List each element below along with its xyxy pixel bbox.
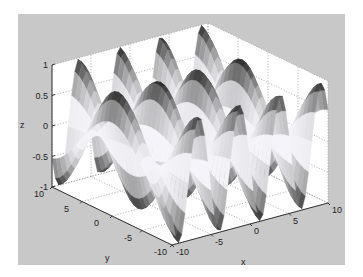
z-tick-label: -1 [40, 182, 48, 192]
y-tick-label: -5 [124, 233, 132, 243]
y-tick-label: -10 [154, 247, 167, 257]
y-tick-label: 5 [64, 204, 69, 214]
z-tick-label: 1 [43, 60, 48, 70]
surface-plot: -10-50510-10-50510-1-0.500.51 x y z [0, 0, 363, 277]
x-tick-label: 5 [293, 216, 298, 226]
y-axis-label: y [105, 253, 110, 263]
x-tick-label: -5 [215, 237, 223, 247]
x-tick-label: 10 [332, 205, 342, 215]
x-tick-label: 0 [254, 226, 259, 236]
x-tick-label: -10 [176, 247, 189, 257]
z-tick-label: 0.5 [35, 91, 48, 101]
y-tick-label: 0 [94, 218, 99, 228]
z-tick-label: 0 [43, 121, 48, 131]
z-tick-label: -0.5 [32, 152, 48, 162]
z-axis-label: z [20, 120, 25, 130]
x-axis-label: x [241, 257, 246, 267]
